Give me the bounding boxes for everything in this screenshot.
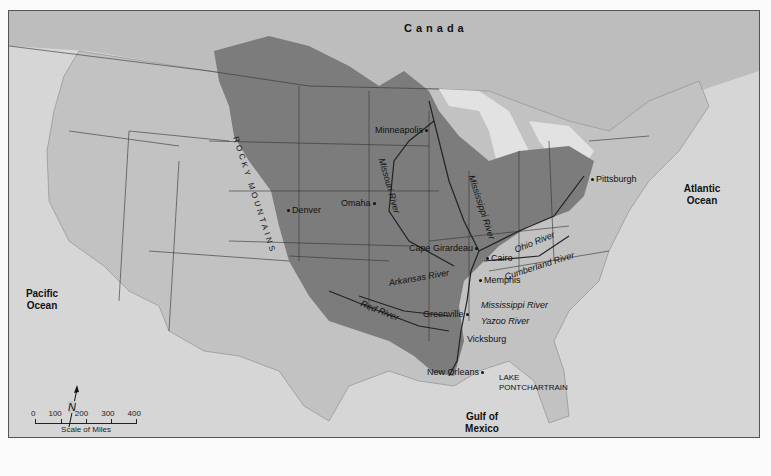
city-denver: Denver (285, 206, 321, 215)
label-gulf-of-mexico: Gulf of Mexico (459, 411, 505, 434)
scale-bar: 0 100 200 300 400 Scale of Miles (31, 409, 141, 434)
city-label: Cairo (491, 253, 513, 263)
city-dot (477, 275, 484, 285)
scale-ticks: 0 100 200 300 400 (31, 409, 141, 418)
city-label: Denver (292, 205, 321, 215)
caption-strip (0, 440, 771, 476)
city-label: New Orleans (427, 367, 479, 377)
city-label: Vicksburg (467, 334, 506, 344)
city-label: Greenville (423, 309, 464, 319)
lake-line2: PONTCHARTRAIN (499, 383, 568, 393)
city-label: Minneapolis (375, 125, 423, 135)
scale-caption: Scale of Miles (31, 425, 141, 434)
label-pacific-ocean: Pacific Ocean (17, 288, 67, 311)
lake-line1: LAKE (499, 373, 568, 383)
city-omaha: Omaha (341, 199, 378, 208)
city-dot (285, 205, 292, 215)
map-canvas (9, 11, 759, 437)
city-pittsburgh: Pittsburgh (589, 175, 637, 184)
city-label: Pittsburgh (596, 174, 637, 184)
map-frame: Canada Pacific Ocean Atlantic Ocean Gulf… (8, 10, 760, 438)
label-atlantic-ocean: Atlantic Ocean (677, 183, 727, 206)
city-cairo: Cairo (484, 254, 513, 263)
scale-tick: 300 (101, 409, 114, 418)
scale-tick: 200 (75, 409, 88, 418)
scale-tick: 100 (48, 409, 61, 418)
city-label: Omaha (341, 198, 371, 208)
city-dot (371, 198, 378, 208)
city-dot (479, 367, 486, 377)
label-mississippi-river-lower: Mississippi River (481, 301, 548, 310)
label-canada: Canada (404, 23, 468, 34)
city-dot (589, 174, 596, 184)
scale-line (35, 419, 137, 424)
pacific-ocean-text: Pacific Ocean (17, 288, 67, 311)
city-label: Cape Girardeau (409, 243, 473, 253)
city-minneapolis: Minneapolis (375, 126, 430, 135)
label-lake-pontchartrain: LAKE PONTCHARTRAIN (499, 373, 568, 392)
city-dot (464, 309, 471, 319)
city-new-orleans: New Orleans (427, 368, 486, 377)
gulf-of-mexico-text: Gulf of Mexico (459, 411, 505, 434)
scale-tick: 0 (31, 409, 35, 418)
city-dot (423, 125, 430, 135)
city-dot (484, 253, 491, 263)
city-greenville: Greenville (423, 310, 471, 319)
city-dot (473, 243, 480, 253)
scale-tick: 400 (128, 409, 141, 418)
city-cape-girardeau: Cape Girardeau (409, 244, 480, 253)
city-vicksburg: Vicksburg (467, 335, 506, 344)
atlantic-ocean-text: Atlantic Ocean (677, 183, 727, 206)
label-yazoo-river: Yazoo River (481, 317, 529, 326)
